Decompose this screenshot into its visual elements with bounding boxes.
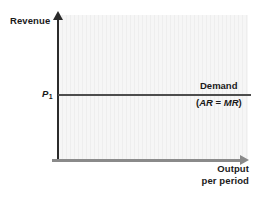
y-axis-arrow-icon — [53, 11, 63, 20]
x-axis-label: Output per period — [202, 163, 249, 186]
price-level-label: P1 — [42, 88, 53, 100]
mr-symbol: MR — [224, 97, 239, 108]
x-axis-label-line2: per period — [202, 175, 249, 187]
y-axis-line — [57, 18, 59, 162]
equals-symbol: = — [213, 97, 224, 108]
demand-label: Demand — [200, 80, 237, 91]
paren-close: ) — [239, 97, 242, 108]
x-axis-line — [52, 159, 242, 162]
x-axis-label-line1: Output — [202, 163, 249, 175]
price-level-subscript: 1 — [48, 93, 52, 100]
ar-mr-label: (AR = MR) — [196, 97, 242, 108]
demand-curve-line — [58, 94, 251, 96]
y-axis-label: Revenue — [10, 15, 50, 26]
ar-symbol: AR — [199, 97, 213, 108]
perfect-competition-demand-chart: Revenue P1 Demand (AR = MR) Output per p… — [0, 0, 254, 197]
